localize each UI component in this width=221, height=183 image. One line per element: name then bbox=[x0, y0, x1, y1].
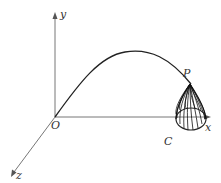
y-axis-arrow-icon bbox=[53, 12, 58, 19]
x-axis-label: x bbox=[205, 122, 211, 133]
cone-diagram: y x z O P C bbox=[0, 0, 221, 183]
y-axis-label: y bbox=[60, 9, 66, 20]
cone-rulings bbox=[176, 84, 205, 130]
y-axis bbox=[53, 12, 58, 117]
curve-c-label: C bbox=[164, 136, 172, 147]
point-p-label: P bbox=[183, 68, 190, 79]
space-curve bbox=[55, 51, 191, 117]
diagram-canvas bbox=[0, 0, 221, 183]
origin-label: O bbox=[51, 120, 60, 131]
z-axis bbox=[11, 117, 55, 177]
z-axis-label: z bbox=[16, 170, 22, 181]
